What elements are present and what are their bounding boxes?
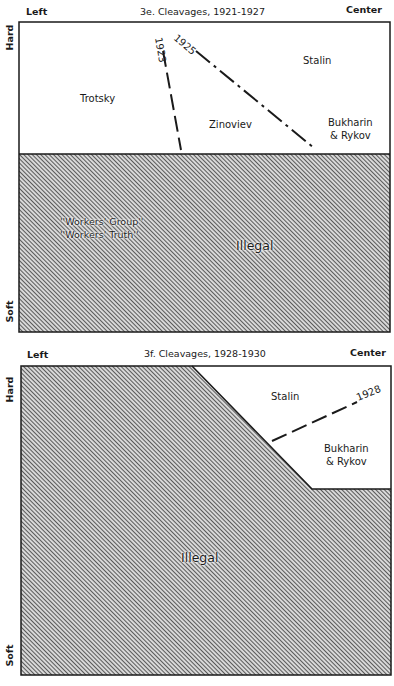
panel-f-title: 3f. Cleavages, 1928-1930 <box>144 348 266 359</box>
rykov-label-f: & Rykov <box>324 455 369 468</box>
bukharin-label-f: Bukharin <box>324 442 369 455</box>
diagram-canvas: 1923 1925 1928 <box>0 0 394 686</box>
region-stalin-f: Stalin <box>271 390 299 403</box>
region-zinoviev: Zinoviev <box>209 118 252 131</box>
panel-e-axis-left: Left <box>26 6 47 17</box>
region-trotsky: Trotsky <box>80 92 115 105</box>
panel-f-axis-left: Left <box>27 349 48 360</box>
region-bukharin-rykov-f: Bukharin & Rykov <box>324 442 369 468</box>
region-bukharin-rykov-e: Bukharin & Rykov <box>328 116 373 142</box>
bukharin-label: Bukharin <box>328 116 373 129</box>
region-illegal-f: Illegal <box>181 550 218 565</box>
panel-f-graphic <box>21 366 391 675</box>
workers-group-label: ''Workers' Group'' <box>60 215 143 228</box>
panel-e-axis-bottom: Soft <box>4 300 15 322</box>
region-workers: ''Workers' Group'' ''Workers' Truth'' <box>60 215 143 241</box>
panel-e-axis-right: Center <box>346 4 382 15</box>
panel-e-title: 3e. Cleavages, 1921-1927 <box>140 6 265 17</box>
panel-e-graphic <box>19 22 390 332</box>
panel-e-axis-top: Hard <box>4 25 15 51</box>
region-stalin-e: Stalin <box>303 54 331 67</box>
panel-f-axis-bottom: Soft <box>4 644 15 666</box>
rykov-label: & Rykov <box>328 129 373 142</box>
panel-e-illegal-area <box>19 154 390 332</box>
region-illegal-e: Illegal <box>236 238 273 253</box>
panel-f-axis-top: Hard <box>4 377 15 403</box>
workers-truth-label: ''Workers' Truth'' <box>60 228 143 241</box>
panel-f-axis-right: Center <box>350 347 386 358</box>
